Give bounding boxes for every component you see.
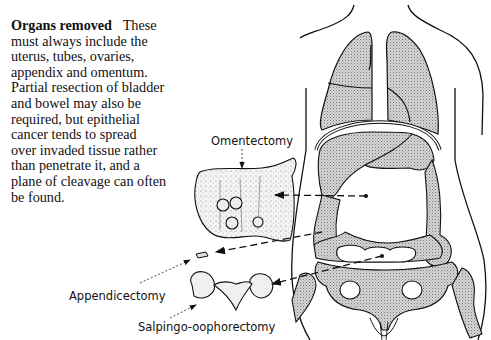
label-appendicectomy: Appendicectomy — [69, 289, 166, 303]
omentum-specimen — [195, 158, 296, 241]
label-salpingo-oophorectomy: Salpingo-oophorectomy — [138, 320, 275, 334]
appendix-specimen — [196, 252, 208, 258]
uterus-adnexa-specimen — [191, 272, 273, 310]
liver-stomach — [318, 132, 434, 199]
lungs — [320, 32, 438, 134]
label-omentectomy: Omentectomy — [211, 134, 293, 148]
